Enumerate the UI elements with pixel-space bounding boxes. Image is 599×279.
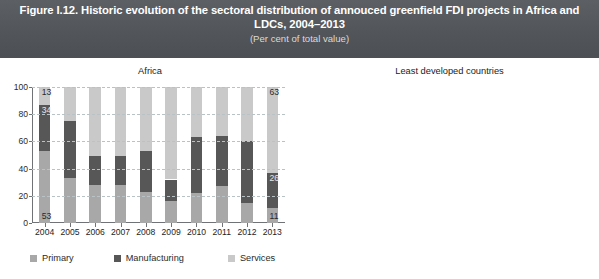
chart-title-ldc: Least developed countries [300, 66, 599, 76]
bar-segment-manufacturing[interactable] [89, 156, 101, 185]
y-axis-tick-label: 0 [23, 218, 28, 228]
gridline [32, 196, 285, 197]
y-axis-tick-label: 40 [18, 164, 28, 174]
bar-segment-manufacturing[interactable]: 26 [267, 173, 279, 208]
bar-segment-primary[interactable]: 11 [267, 208, 279, 223]
x-axis-tick-label: 2005 [60, 227, 79, 237]
bar-group[interactable] [64, 87, 76, 223]
figure-title: Figure I.12. Historic evolution of the s… [14, 4, 585, 31]
y-axis-tick-label: 100 [14, 82, 28, 92]
bar-segment-services[interactable] [191, 87, 203, 137]
chart-panel-africa: Africa 533413112663 020406080100 2004200… [0, 58, 300, 279]
x-axis-tick-label: 2008 [136, 227, 155, 237]
bar-value-label: 11 [270, 212, 279, 221]
y-axis-tick-mark [29, 223, 32, 224]
bar-group[interactable]: 112663 [267, 87, 279, 223]
bar-segment-manufacturing[interactable] [216, 136, 228, 186]
bar-segment-primary[interactable]: 53 [39, 151, 51, 223]
bar-value-label: 53 [42, 212, 52, 221]
legend-africa: PrimaryManufacturingServices [18, 250, 290, 266]
bar-segment-primary[interactable] [216, 186, 228, 223]
bar-segment-primary[interactable] [89, 185, 101, 223]
bar-segment-services[interactable]: 13 [39, 87, 51, 105]
bar-value-label: 13 [42, 88, 52, 97]
legend-swatch-services [228, 255, 235, 262]
figure-subtitle: (Per cent of total value) [14, 33, 585, 45]
bar-segment-primary[interactable] [165, 201, 177, 223]
bar-segment-manufacturing[interactable] [241, 141, 253, 202]
y-axis-tick-label: 60 [18, 136, 28, 146]
bar-series-africa: 533413112663 [32, 87, 285, 223]
chart-panel-ldc: Least developed countries 74161092170 02… [300, 58, 599, 279]
plot-area-africa: 533413112663 020406080100 [32, 87, 285, 223]
bar-segment-manufacturing[interactable] [165, 180, 177, 202]
bar-group[interactable] [216, 87, 228, 223]
bar-group[interactable] [191, 87, 203, 223]
bar-group[interactable] [89, 87, 101, 223]
bar-value-label: 26 [270, 174, 280, 183]
bar-segment-manufacturing[interactable] [115, 156, 127, 185]
bar-value-label: 63 [270, 88, 280, 97]
x-axis-tick-label: 2009 [162, 227, 181, 237]
bar-group[interactable] [165, 87, 177, 223]
legend-label-primary: Primary [42, 253, 74, 263]
gridline [32, 87, 285, 88]
y-axis-tick-label: 20 [18, 191, 28, 201]
bar-segment-primary[interactable] [64, 178, 76, 223]
legend-item-manufacturing[interactable]: Manufacturing [114, 253, 184, 263]
x-axis-tick-label: 2004 [35, 227, 54, 237]
bar-group[interactable] [140, 87, 152, 223]
chart-title-africa: Africa [0, 66, 300, 76]
y-axis-tick-label: 80 [18, 109, 28, 119]
gridline [32, 169, 285, 170]
legend-item-primary[interactable]: Primary [30, 253, 74, 263]
x-axis-labels-africa: 2004200520062007200820092010201120122013 [32, 227, 285, 241]
bar-segment-manufacturing[interactable] [191, 137, 203, 193]
bar-group[interactable] [115, 87, 127, 223]
bar-group[interactable] [241, 87, 253, 223]
x-axis-tick-label: 2006 [86, 227, 105, 237]
legend-item-services[interactable]: Services [228, 253, 275, 263]
bar-segment-services[interactable] [64, 87, 76, 121]
bar-segment-primary[interactable] [191, 193, 203, 223]
x-axis-tick-label: 2010 [187, 227, 206, 237]
bar-segment-services[interactable]: 63 [267, 87, 279, 173]
legend-swatch-primary [30, 255, 37, 262]
bar-segment-services[interactable] [115, 87, 127, 156]
x-axis-tick-label: 2007 [111, 227, 130, 237]
x-axis-tick-label: 2012 [237, 227, 256, 237]
legend-swatch-manufacturing [114, 255, 121, 262]
bar-segment-primary[interactable] [241, 203, 253, 223]
bar-segment-services[interactable] [89, 87, 101, 156]
bar-segment-primary[interactable] [115, 185, 127, 223]
bar-group[interactable]: 533413 [39, 87, 51, 223]
bar-segment-manufacturing[interactable] [140, 151, 152, 192]
x-axis-tick-label: 2013 [263, 227, 282, 237]
gridline [32, 141, 285, 142]
x-axis-tick-label: 2011 [213, 227, 231, 237]
legend-label-services: Services [240, 253, 275, 263]
gridline [32, 114, 285, 115]
bar-segment-manufacturing[interactable]: 34 [39, 105, 51, 151]
bar-segment-services[interactable] [165, 87, 177, 179]
legend-label-manufacturing: Manufacturing [126, 253, 184, 263]
figure-header-banner: Figure I.12. Historic evolution of the s… [0, 0, 599, 58]
bar-segment-services[interactable] [216, 87, 228, 136]
